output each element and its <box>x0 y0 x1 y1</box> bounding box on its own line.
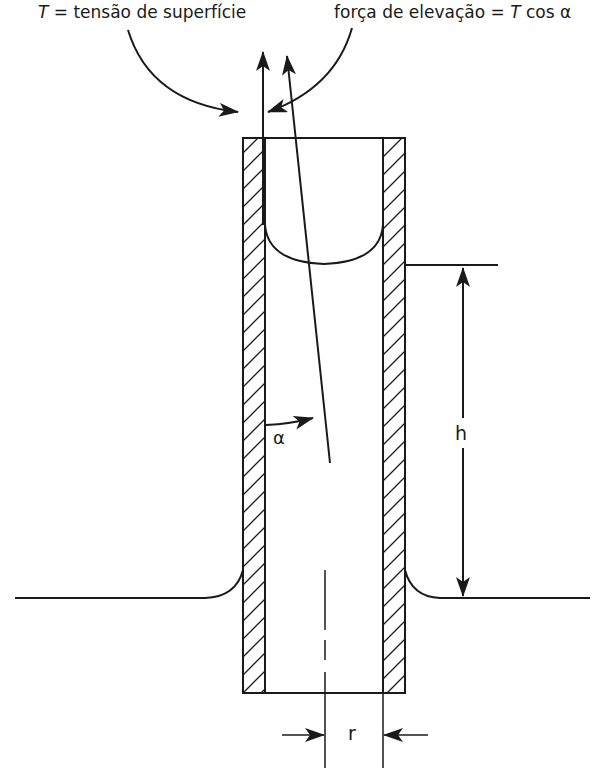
tube-left-wall <box>243 138 265 693</box>
lift-variable: T <box>510 2 520 22</box>
lift-leader-arrow <box>268 28 352 112</box>
liquid-surface-right <box>405 570 590 598</box>
radius-r-label: r <box>348 722 356 744</box>
meniscus-curve <box>265 225 383 264</box>
lift-suffix: cos α <box>521 2 572 22</box>
height-h-label: h <box>455 422 467 444</box>
tube-right-wall <box>383 138 405 693</box>
surface-tension-label: T = tensão de superfície <box>38 2 246 22</box>
capillary-diagram <box>0 0 602 776</box>
lift-force-label: força de elevação = T cos α <box>334 2 571 22</box>
tension-variable: T <box>38 2 48 22</box>
liquid-surface-left <box>15 570 243 598</box>
angle-arrow <box>266 418 313 425</box>
lift-text: força de elevação = <box>334 2 510 22</box>
tension-text: = tensão de superfície <box>48 2 246 22</box>
angle-alpha-label: α <box>273 427 285 448</box>
tension-leader-arrow <box>128 30 238 112</box>
